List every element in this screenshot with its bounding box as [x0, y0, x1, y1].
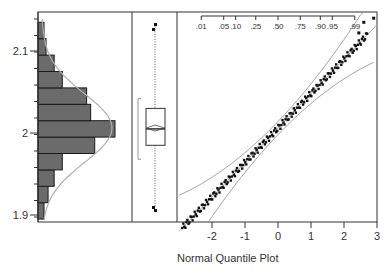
data-point	[227, 181, 229, 183]
data-point	[305, 97, 307, 99]
data-point	[312, 87, 314, 89]
data-point	[285, 115, 287, 117]
y-tick-label: 1.9	[13, 209, 28, 221]
data-point	[326, 78, 328, 80]
histogram-bar	[38, 72, 62, 88]
data-point	[267, 136, 269, 138]
data-point	[215, 193, 217, 195]
data-point	[229, 176, 231, 178]
data-point	[357, 31, 360, 34]
shortest-half-bracket	[138, 99, 141, 160]
data-point	[358, 39, 360, 41]
data-point	[345, 55, 347, 57]
data-point	[249, 158, 251, 160]
data-point	[234, 175, 236, 177]
quantile-plot-panel	[179, 12, 377, 231]
data-point	[299, 107, 301, 109]
probability-tick-label: .95	[327, 22, 339, 31]
data-point	[279, 128, 281, 130]
upper-confidence-band	[179, 12, 374, 195]
probability-tick-label: .75	[295, 22, 307, 31]
histogram-bar	[38, 121, 115, 137]
data-point	[236, 167, 238, 169]
data-point	[324, 75, 326, 77]
data-point	[207, 203, 209, 205]
probability-axis: .01.05.10.25.50.75.90.95.99	[196, 16, 361, 31]
outlier-point	[152, 206, 155, 209]
data-point	[259, 143, 261, 145]
data-point	[204, 204, 206, 206]
data-point	[243, 159, 245, 161]
data-point	[295, 112, 297, 114]
data-point	[310, 95, 312, 97]
data-point	[276, 130, 278, 132]
histogram-bar	[38, 186, 48, 202]
data-point	[253, 153, 255, 155]
data-point	[182, 222, 184, 224]
data-point	[322, 83, 324, 85]
data-point	[208, 198, 210, 200]
probability-tick-label: .90	[315, 22, 327, 31]
data-point	[292, 112, 294, 114]
data-point	[278, 124, 280, 126]
probability-tick-label: .99	[349, 22, 361, 31]
data-point	[335, 63, 337, 65]
data-point	[222, 187, 224, 189]
data-point	[360, 43, 362, 45]
data-point	[200, 210, 202, 212]
data-point	[263, 139, 265, 141]
data-point	[269, 135, 271, 137]
data-point	[328, 72, 330, 74]
data-point	[209, 195, 211, 197]
data-point	[241, 167, 243, 169]
data-point	[251, 152, 253, 154]
x-axis: -2-10123	[207, 222, 380, 242]
data-point	[202, 203, 204, 205]
histogram-bar	[38, 203, 44, 219]
data-point	[333, 72, 335, 74]
data-point	[191, 219, 193, 221]
data-point	[188, 221, 190, 223]
x-tick-label: 0	[275, 230, 281, 242]
data-point	[339, 60, 341, 62]
data-point	[334, 66, 336, 68]
data-point	[197, 209, 199, 211]
data-point	[329, 76, 331, 78]
data-point	[206, 201, 208, 203]
data-point	[346, 51, 348, 53]
data-point	[337, 67, 339, 69]
data-point	[272, 135, 274, 137]
data-point	[281, 119, 283, 121]
box-plot-panel	[138, 23, 165, 212]
probability-tick-label: .05	[218, 22, 230, 31]
data-point	[344, 60, 346, 62]
probability-tick-label: .10	[230, 22, 242, 31]
data-point	[257, 147, 259, 149]
data-point	[240, 164, 242, 166]
data-point	[265, 141, 267, 143]
probability-tick-label: .50	[272, 22, 284, 31]
data-point	[252, 155, 254, 157]
data-point	[246, 158, 248, 160]
data-point	[306, 100, 308, 102]
x-tick-label: -2	[207, 230, 217, 242]
data-point	[218, 191, 220, 193]
y-axis: 2.121.9	[13, 12, 38, 222]
data-point	[230, 179, 232, 181]
x-tick-label: 3	[374, 230, 380, 242]
data-point	[303, 101, 305, 103]
data-point	[213, 191, 215, 193]
histogram-bar	[38, 170, 54, 186]
outlier-point	[152, 28, 155, 31]
data-point	[247, 155, 249, 157]
data-point	[364, 38, 366, 40]
data-point	[332, 69, 334, 71]
data-point	[343, 57, 345, 59]
data-point	[224, 179, 226, 181]
data-point	[214, 195, 216, 197]
histogram-bar	[38, 104, 91, 120]
histogram-bar	[38, 154, 62, 170]
data-point	[211, 198, 213, 200]
probability-tick-label: .25	[250, 22, 262, 31]
probability-tick-label: .01	[196, 22, 208, 31]
